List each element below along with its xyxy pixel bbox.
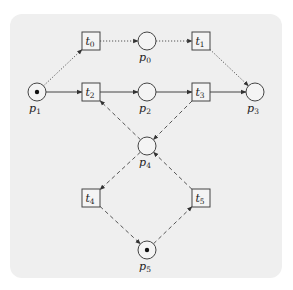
place-circle xyxy=(246,83,264,101)
arc-p4-to-t2 xyxy=(100,101,141,140)
transition-t0: t0 xyxy=(82,32,100,50)
petri-net-diagram: p0p1p2p3p4p5t0t1t2t3t4t5 xyxy=(0,0,293,290)
arc-t4-to-p5 xyxy=(100,206,140,244)
arc-p4-to-t4 xyxy=(100,152,140,190)
arc-t3-to-p4 xyxy=(153,101,192,140)
arc-t1-to-p3 xyxy=(210,50,248,86)
transition-t1: t1 xyxy=(192,32,210,50)
place-label-p3: p3 xyxy=(247,102,259,116)
arc-t5-to-p4 xyxy=(153,152,192,189)
transition-t4: t4 xyxy=(82,189,100,207)
transition-t2: t2 xyxy=(82,83,100,101)
place-circle xyxy=(138,137,156,155)
place-circle xyxy=(138,32,156,50)
place-p5: p5 xyxy=(138,241,156,274)
nodes-layer: p0p1p2p3p4p5t0t1t2t3t4t5 xyxy=(28,32,264,274)
place-label-p2: p2 xyxy=(139,102,151,116)
place-p2: p2 xyxy=(138,83,156,116)
arc-p1-to-t0 xyxy=(44,50,82,86)
place-label-p0: p0 xyxy=(139,51,151,65)
place-p0: p0 xyxy=(138,32,156,65)
token-dot xyxy=(35,90,39,94)
transition-t3: t3 xyxy=(192,83,210,101)
place-p1: p1 xyxy=(28,83,46,116)
place-p3: p3 xyxy=(246,83,264,116)
place-label-p4: p4 xyxy=(139,156,151,170)
place-circle xyxy=(138,83,156,101)
place-label-p1: p1 xyxy=(29,102,41,116)
arc-p5-to-t5 xyxy=(153,207,192,244)
place-label-p5: p5 xyxy=(139,260,151,274)
token-dot xyxy=(145,248,149,252)
transition-t5: t5 xyxy=(192,189,210,207)
place-p4: p4 xyxy=(138,137,156,170)
